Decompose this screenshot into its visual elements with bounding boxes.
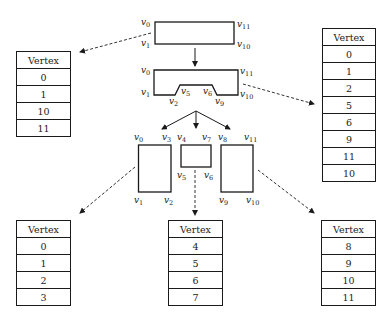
table-cell: 10 (17, 103, 71, 120)
label-v2-left: v2 (164, 195, 173, 207)
table-cell: 9 (323, 131, 376, 148)
label-v5-mid: v5 (181, 86, 190, 98)
label-v1-mid: v1 (141, 87, 150, 99)
table-header: Vertex (17, 52, 71, 69)
vertex-table-original: Vertex 0 1 10 11 (16, 51, 71, 137)
table-cell: 0 (17, 238, 71, 255)
label-v8-right: v8 (218, 132, 227, 144)
label-v7-middle: v7 (202, 132, 211, 144)
table-cell: 9 (322, 255, 376, 272)
table-cell: 3 (17, 289, 71, 306)
table-cell: 5 (323, 97, 376, 114)
label-v6-mid: v6 (203, 86, 212, 98)
label-v1-left: v1 (134, 195, 143, 207)
table-cell: 0 (323, 46, 376, 63)
table-cell: 8 (322, 238, 376, 255)
label-v11-mid: v11 (240, 66, 253, 78)
table-cell: 4 (169, 238, 223, 255)
table-cell: 1 (17, 86, 71, 103)
table-cell: 0 (17, 69, 71, 86)
label-v3-left: v3 (162, 132, 171, 144)
arrow-split-right (196, 111, 230, 129)
table-header: Vertex (322, 221, 376, 238)
label-v0-left: v0 (134, 132, 143, 144)
label-v0-mid: v0 (141, 65, 150, 77)
table-cell: 11 (323, 148, 376, 165)
vertex-table-middle: Vertex 4 5 6 7 (168, 220, 223, 306)
table-header: Vertex (323, 29, 376, 46)
dashed-arrow-left-table (80, 167, 135, 213)
table-cell: 5 (169, 255, 223, 272)
table-cell: 1 (17, 255, 71, 272)
table-cell: 1 (323, 63, 376, 80)
dashed-arrow-right-table (258, 170, 314, 213)
right-piece-rectangle (221, 145, 253, 192)
table-cell: 10 (323, 165, 376, 182)
dashed-arrow-notched-table (243, 84, 314, 104)
arrow-split-left (162, 111, 196, 129)
label-v0-top: v0 (141, 17, 150, 29)
label-v4-middle: v4 (177, 132, 186, 144)
notched-polygon (154, 70, 238, 95)
table-cell: 6 (323, 114, 376, 131)
table-cell: 10 (322, 272, 376, 289)
table-cell: 2 (323, 80, 376, 97)
table-cell: 6 (169, 272, 223, 289)
vertex-table-left: Vertex 0 1 2 3 (16, 220, 71, 306)
label-v11-top: v11 (237, 19, 250, 31)
table-cell: 11 (322, 289, 376, 306)
table-cell: 7 (169, 289, 223, 306)
label-v5-middle: v5 (177, 170, 186, 182)
table-cell: 11 (17, 120, 71, 137)
table-header: Vertex (169, 221, 223, 238)
label-v11-right: v11 (244, 132, 257, 144)
label-v2-mid: v2 (169, 96, 178, 108)
vertex-table-notched: Vertex 0 1 2 5 6 9 11 10 (322, 28, 376, 182)
label-v9-mid: v9 (215, 96, 224, 108)
vertex-table-right: Vertex 8 9 10 11 (321, 220, 376, 306)
label-v10-right: v10 (246, 195, 259, 207)
label-v6-middle: v6 (204, 170, 213, 182)
label-v1-top: v1 (141, 38, 150, 50)
middle-piece-rectangle (181, 145, 211, 167)
label-v10-mid: v10 (240, 89, 253, 101)
table-cell: 2 (17, 272, 71, 289)
label-v9-right: v9 (219, 195, 228, 207)
original-rectangle (155, 22, 234, 44)
label-v10-top: v10 (237, 39, 250, 51)
table-header: Vertex (17, 221, 71, 238)
left-piece-rectangle (139, 145, 172, 192)
